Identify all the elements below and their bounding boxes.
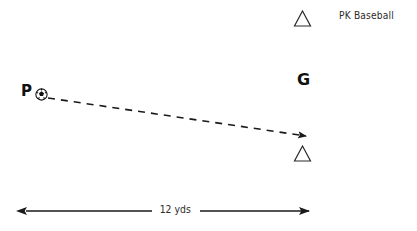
triangle-cone-icon-bottom [295, 146, 311, 161]
diagram-canvas: PK Baseball P G 12 yds [0, 0, 417, 231]
distance-measure-label: 12 yds [155, 204, 195, 215]
goalkeeper-marker-label: G [297, 72, 310, 88]
player-marker-label: P [21, 84, 32, 99]
diagram-title: PK Baseball [339, 10, 394, 21]
dashed-arrow-icon-shot-path [48, 98, 306, 136]
diagram-vector-layer [0, 0, 417, 231]
soccer-ball-icon [35, 88, 48, 101]
triangle-cone-icon-top [295, 11, 311, 26]
